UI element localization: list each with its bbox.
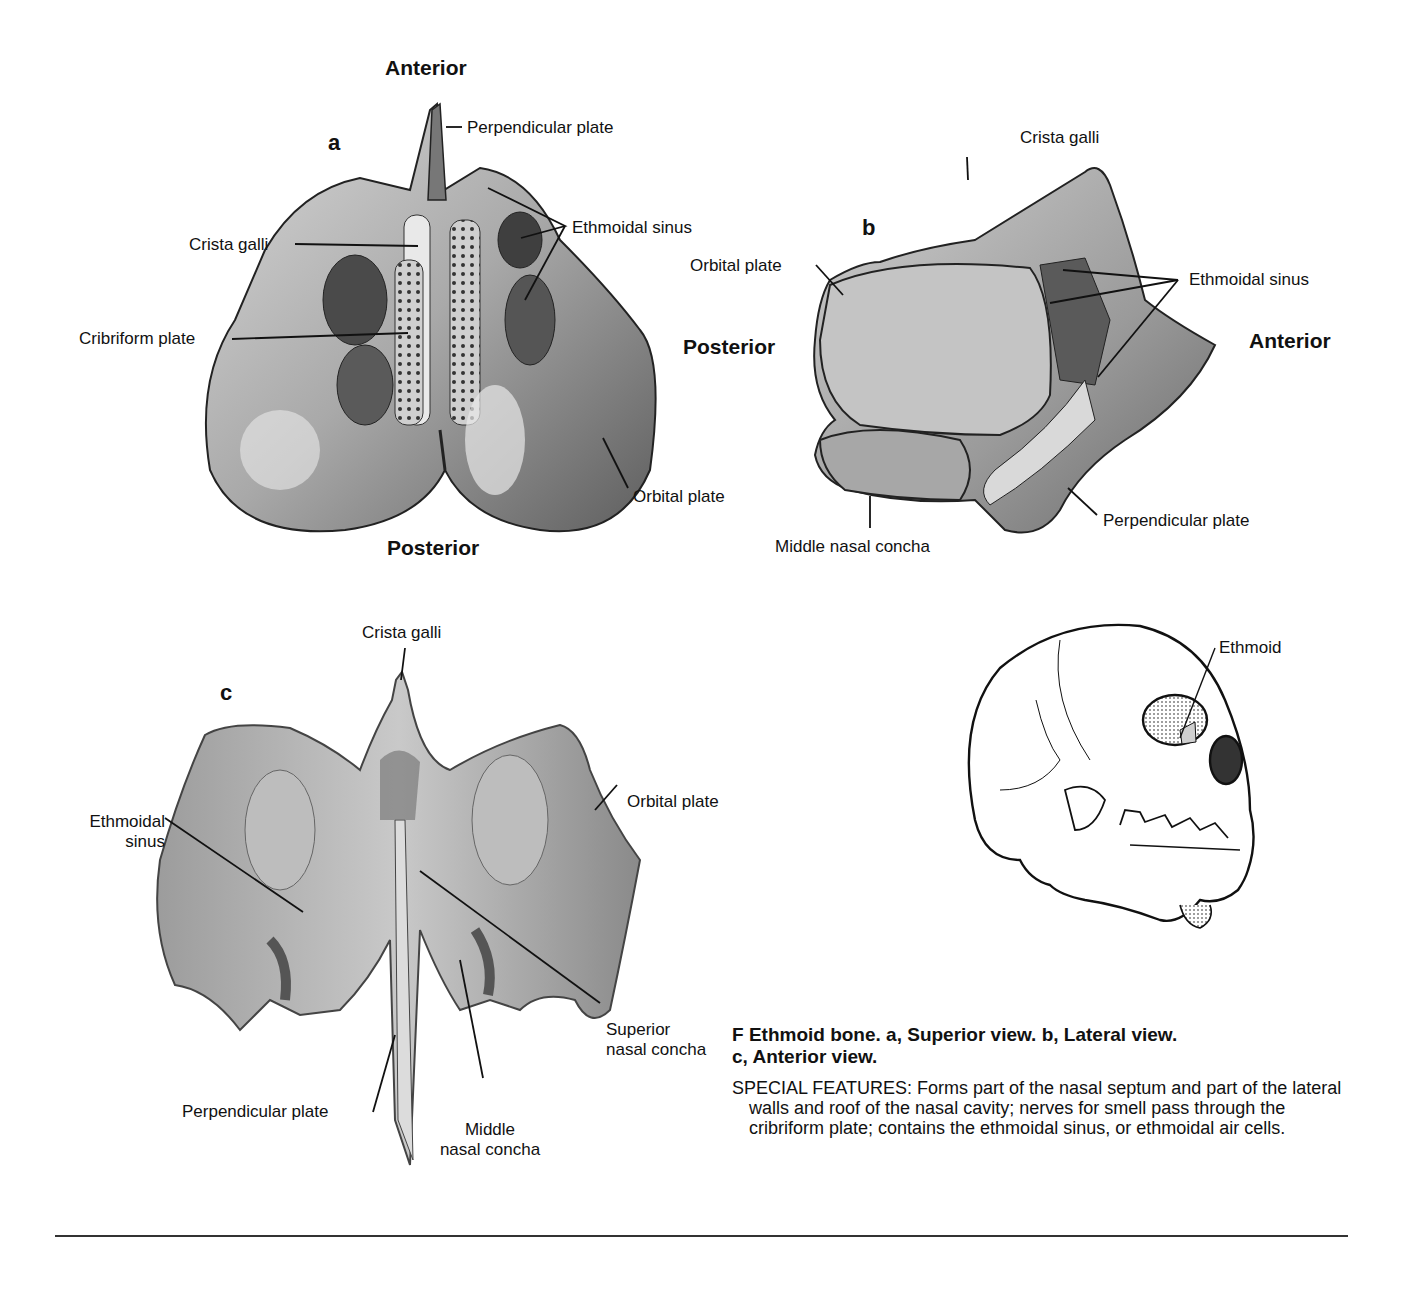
panel-a-label-ethmoidal-sinus: Ethmoidal sinus <box>572 218 692 238</box>
panel-c-letter: c <box>220 680 232 706</box>
panel-b-label-orbital-plate: Orbital plate <box>690 256 782 276</box>
panel-c-label-perpendicular-plate: Perpendicular plate <box>182 1102 328 1122</box>
panel-a-orientation-posterior: Posterior <box>387 538 479 558</box>
panel-a-label-orbital-plate: Orbital plate <box>633 487 725 507</box>
page-divider-rule <box>55 1235 1348 1237</box>
panel-c-label-superior-nasal-concha-line2: nasal concha <box>606 1040 706 1060</box>
panel-c-label-superior-nasal-concha-line1: Superior <box>606 1020 706 1040</box>
panel-a-orientation-anterior: Anterior <box>385 58 467 78</box>
caption-title-line1: F Ethmoid bone. a, Superior view. b, Lat… <box>732 1024 1352 1046</box>
panel-c-anterior-view-illustration <box>157 672 640 1165</box>
panel-c-label-ethmoidal-sinus-line1: Ethmoidal <box>73 812 165 832</box>
skull-locator-illustration <box>969 625 1254 928</box>
panel-b-label-perpendicular-plate: Perpendicular plate <box>1103 511 1249 531</box>
panel-b-label-crista-galli: Crista galli <box>1020 128 1099 148</box>
panel-b-letter: b <box>862 215 875 241</box>
panel-c-label-crista-galli: Crista galli <box>362 623 441 643</box>
panel-a-letter: a <box>328 130 340 156</box>
panel-b-orientation-posterior: Posterior <box>683 337 775 357</box>
panel-a-superior-view-illustration <box>206 104 656 531</box>
panel-b-label-middle-nasal-concha: Middle nasal concha <box>775 537 930 557</box>
figure-caption: F Ethmoid bone. a, Superior view. b, Lat… <box>732 1024 1352 1138</box>
panel-c-label-orbital-plate: Orbital plate <box>627 792 719 812</box>
panel-c-label-middle-nasal-concha: Middle nasal concha <box>420 1120 560 1160</box>
panel-a-label-perpendicular-plate: Perpendicular plate <box>467 118 613 138</box>
panel-a-label-crista-galli: Crista galli <box>189 235 268 255</box>
skull-label-ethmoid: Ethmoid <box>1219 638 1281 658</box>
caption-special-features: SPECIAL FEATURES: Forms part of the nasa… <box>732 1078 1352 1138</box>
panel-c-label-middle-nasal-concha-line1: Middle <box>420 1120 560 1140</box>
panel-c-label-superior-nasal-concha: Superior nasal concha <box>606 1020 706 1060</box>
panel-a-label-cribriform-plate: Cribriform plate <box>79 329 195 349</box>
panel-c-label-middle-nasal-concha-line2: nasal concha <box>420 1140 560 1160</box>
panel-c-label-ethmoidal-sinus: Ethmoidal sinus <box>73 812 165 852</box>
panel-c-label-ethmoidal-sinus-line2: sinus <box>73 832 165 852</box>
panel-b-orientation-anterior: Anterior <box>1249 331 1331 351</box>
panel-b-label-ethmoidal-sinus: Ethmoidal sinus <box>1189 270 1309 290</box>
caption-title-line2: c, Anterior view. <box>732 1046 1352 1068</box>
